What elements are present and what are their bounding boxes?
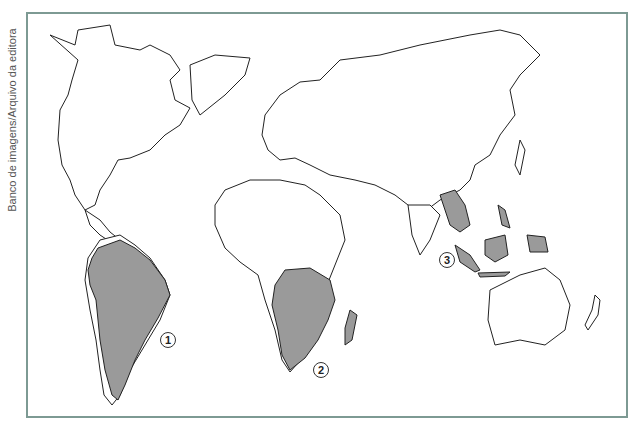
japan	[515, 140, 525, 175]
philippines	[498, 205, 510, 228]
new-guinea	[527, 235, 548, 252]
region-1-label: 1	[160, 332, 176, 348]
world-map	[0, 0, 634, 424]
madagascar	[345, 310, 357, 345]
region-3-number: 3	[444, 254, 450, 266]
new-zealand	[585, 295, 600, 330]
region-2-number: 2	[318, 364, 324, 376]
java	[478, 272, 510, 277]
north-america	[50, 25, 190, 210]
greenland	[190, 55, 250, 115]
region-3-label: 3	[439, 252, 455, 268]
region-1-number: 1	[165, 334, 171, 346]
borneo	[485, 235, 508, 262]
sumatra	[455, 245, 480, 272]
india	[408, 205, 440, 255]
region-2-label: 2	[313, 362, 329, 378]
region-2-highlight	[272, 268, 335, 370]
australia	[488, 268, 570, 345]
region-3-mainland	[440, 190, 470, 232]
